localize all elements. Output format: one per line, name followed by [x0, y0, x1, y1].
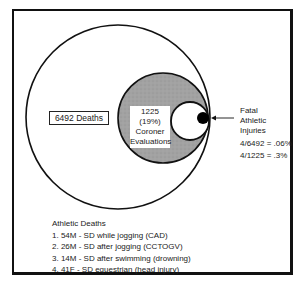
arrow-head-icon [211, 116, 216, 121]
athletic-word: Athletic [240, 116, 266, 126]
ratio-coroner: 4/1225 = .3% [240, 151, 287, 161]
ratio-all-deaths: 4/6492 = .06% [240, 139, 292, 149]
evaluations-word: Evaluations [130, 137, 170, 147]
list-item: 2. 26M - SD after jogging (CCTOGV) [52, 241, 191, 253]
coroner-evaluations-label: 1225 (19%) Coroner Evaluations [130, 106, 170, 148]
athletic-deaths-list: Athletic Deaths 1. 54M - SD while joggin… [52, 218, 191, 276]
injuries-word: Injuries [240, 126, 266, 136]
fatal-word: Fatal [240, 106, 266, 116]
coroner-word: Coroner [130, 127, 170, 137]
list-title: Athletic Deaths [52, 218, 191, 230]
fatal-athletic-injuries-label: Fatal Athletic Injuries [240, 106, 266, 136]
coroner-count: 1225 (19%) [130, 107, 170, 127]
total-deaths-label: 6492 Deaths [49, 111, 109, 125]
list-item: 3. 14M - SD after swimming (drowning) [52, 253, 191, 265]
fatal-athletic-injuries-dot [197, 112, 209, 124]
list-item: 1. 54M - SD while jogging (CAD) [52, 230, 191, 242]
list-item: 4. 41F - SD equestrian (head injury) [52, 264, 191, 276]
